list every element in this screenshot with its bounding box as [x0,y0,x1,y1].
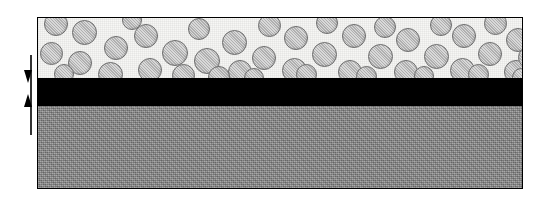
particle-circle [252,46,276,70]
particle-circle [208,66,230,78]
layer-interlayer [38,78,522,106]
cross-section-diagram [37,17,523,189]
particle-circle [138,58,162,78]
layer-substrate [38,106,522,188]
particle-circle [356,66,377,78]
particle-circle [374,18,396,38]
particle-circle [258,18,281,37]
particle-circle [342,24,366,48]
particle-circle [484,18,507,35]
particle-circle [54,64,74,78]
particle-circle [312,42,337,67]
particle-circle [222,30,247,55]
particle-circle [368,44,393,69]
particle-circle [316,18,338,34]
particle-circle [44,18,68,36]
particle-circle [104,36,128,60]
layer-composite [38,18,522,78]
particle-circle [396,28,420,52]
particle-circle [506,28,522,52]
particle-circle [40,42,63,65]
particle-circle [296,64,317,78]
particle-circle [478,42,502,66]
particle-circle [172,64,195,78]
particle-circle [162,40,188,66]
particle-circle [468,64,489,78]
particle-circle [452,24,476,48]
figure-root [0,0,547,199]
particle-circle [284,26,308,50]
particle-circle [424,44,449,69]
particle-circle [72,20,97,45]
particle-circle [430,18,452,36]
particle-circle [98,62,123,78]
particle-circle [188,18,210,40]
